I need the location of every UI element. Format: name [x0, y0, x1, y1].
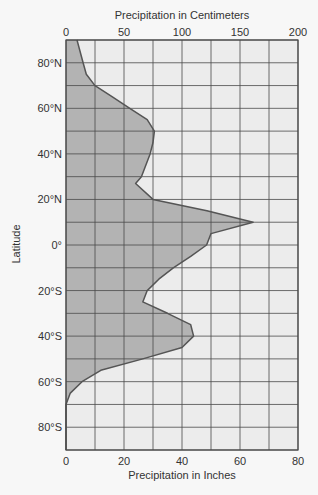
top-tick-label: 0: [63, 26, 69, 38]
bottom-tick-label: 40: [176, 455, 188, 467]
top-tick-label: 200: [289, 26, 307, 38]
precipitation-chart: 05010015020002040608080°N60°N40°N20°N0°2…: [0, 0, 318, 495]
bottom-tick-label: 0: [63, 455, 69, 467]
top-tick-label: 50: [118, 26, 130, 38]
top-tick-label: 100: [173, 26, 191, 38]
latitude-tick-label: 80°N: [37, 57, 62, 69]
latitude-tick-label: 40°N: [37, 148, 62, 160]
latitude-tick-label: 80°S: [38, 421, 62, 433]
top-tick-label: 150: [231, 26, 249, 38]
bottom-tick-label: 80: [292, 455, 304, 467]
latitude-tick-label: 0°: [51, 239, 62, 251]
latitude-tick-label: 20°S: [38, 285, 62, 297]
bottom-tick-label: 60: [234, 455, 246, 467]
latitude-tick-label: 60°S: [38, 376, 62, 388]
latitude-tick-label: 60°N: [37, 102, 62, 114]
bottom-tick-label: 20: [118, 455, 130, 467]
latitude-tick-label: 40°S: [38, 330, 62, 342]
latitude-tick-label: 20°N: [37, 193, 62, 205]
